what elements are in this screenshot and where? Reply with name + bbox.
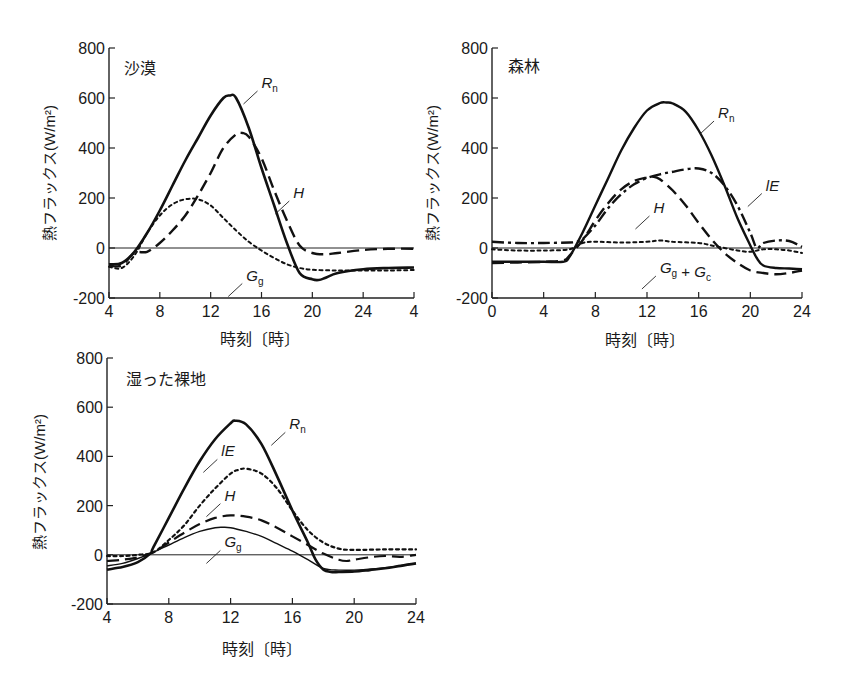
y-tick-label: 600 (76, 399, 103, 416)
curves (109, 95, 414, 280)
curve-label: Rn (262, 74, 278, 94)
x-tick-label: 4 (103, 609, 112, 626)
panel-title: 湿った裸地 (126, 371, 206, 388)
axes: -200020040060080004812162024 (456, 40, 811, 320)
x-tick-label: 4 (539, 303, 548, 320)
curve-label: Rn (289, 415, 305, 435)
curve-le (492, 168, 802, 248)
y-axis-label: 熱フラックス(W/m²) (424, 105, 441, 241)
y-tick-label: 600 (78, 90, 105, 107)
curve-h (109, 133, 414, 267)
curve-label: lE (221, 442, 235, 459)
y-tick-label: 0 (479, 240, 488, 257)
panel-forest: 森林 熱フラックス(W/m²) 時刻〔時〕 -20002004006008000… (424, 40, 811, 349)
curve-h (107, 515, 416, 561)
curve-label: lE (766, 177, 780, 194)
x-axis-label: 時刻〔時〕 (605, 332, 685, 349)
panel-wet-bare-soil: 湿った裸地 熱フラックス(W/m²) 時刻〔時〕 -20002004006008… (31, 350, 425, 658)
y-axis-label: 熱フラックス(W/m²) (41, 105, 58, 241)
x-tick-label: 0 (488, 303, 497, 320)
y-tick-label: 200 (461, 190, 488, 207)
curve-label: Gg (246, 267, 263, 287)
x-tick-label: 24 (793, 303, 811, 320)
y-tick-label: -200 (73, 290, 105, 307)
y-tick-label: 400 (78, 140, 105, 157)
x-tick-label: 16 (284, 609, 302, 626)
x-tick-label: 20 (303, 303, 321, 320)
y-tick-label: -200 (71, 596, 103, 613)
curve-label: H (293, 184, 304, 201)
curve-labels: RnlEHGg (203, 415, 305, 563)
y-tick-label: -200 (456, 290, 488, 307)
x-tick-label: 12 (638, 303, 656, 320)
figure: 沙漠 熱フラックス(W/m²) 時刻〔時〕 -20002004006008004… (0, 0, 842, 689)
curve-label: H (224, 487, 235, 504)
x-tick-label: 20 (741, 303, 759, 320)
x-axis-label: 時刻〔時〕 (220, 331, 300, 348)
x-tick-label: 8 (164, 609, 173, 626)
y-tick-label: 200 (76, 498, 103, 515)
y-tick-label: 800 (76, 350, 103, 367)
x-tick-label: 8 (155, 303, 164, 320)
y-tick-label: 600 (461, 90, 488, 107)
curve-gg (109, 199, 414, 271)
x-tick-label: 24 (407, 609, 425, 626)
x-tick-label: 20 (345, 609, 363, 626)
x-tick-label: 12 (222, 609, 240, 626)
curve-rn (109, 95, 414, 280)
x-tick-label: 24 (354, 303, 372, 320)
axes: -20002004006008004812162024 (71, 350, 425, 626)
curve-label: H (653, 199, 664, 216)
panel-desert: 沙漠 熱フラックス(W/m²) 時刻〔時〕 -20002004006008004… (41, 40, 419, 348)
x-axis-label: 時刻〔時〕 (222, 641, 302, 658)
panel-title: 森林 (508, 58, 540, 75)
y-tick-label: 800 (78, 40, 105, 57)
x-tick-label: 16 (690, 303, 708, 320)
x-tick-label: 4 (105, 303, 114, 320)
curve-label: Rn (718, 104, 734, 124)
x-tick-label: 4 (410, 303, 419, 320)
curve-label: Gg (224, 533, 241, 553)
x-tick-label: 16 (253, 303, 271, 320)
panel-title: 沙漠 (124, 60, 156, 77)
curve-le (107, 469, 416, 557)
y-tick-label: 0 (94, 547, 103, 564)
x-tick-label: 12 (202, 303, 220, 320)
y-tick-label: 200 (78, 190, 105, 207)
curve-h (492, 177, 802, 275)
y-axis-label: 熱フラックス(W/m²) (31, 414, 48, 550)
y-tick-label: 400 (76, 448, 103, 465)
curve-label: Gg + Gc (660, 259, 711, 283)
y-tick-label: 0 (96, 240, 105, 257)
y-tick-label: 800 (461, 40, 488, 57)
x-tick-label: 8 (591, 303, 600, 320)
curves (107, 421, 416, 573)
y-tick-label: 400 (461, 140, 488, 157)
